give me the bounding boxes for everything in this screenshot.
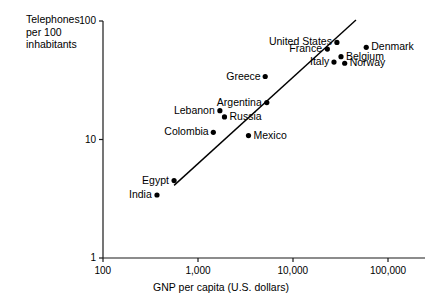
point-label-denmark: Denmark: [371, 40, 414, 52]
data-point-belgium: [338, 54, 343, 59]
data-point-italy: [331, 59, 336, 64]
data-point-united-states: [334, 40, 339, 45]
data-point-lebanon: [217, 108, 222, 113]
point-label-india: India: [129, 188, 152, 200]
data-point-argentina: [264, 100, 269, 105]
y-tick-label-100: 100: [79, 15, 96, 26]
x-tick-label-1,000: 1,000: [186, 265, 211, 276]
point-label-russia: Russia: [229, 110, 261, 122]
point-label-colombia: Colombia: [164, 125, 208, 137]
data-point-india: [154, 192, 159, 197]
point-label-egypt: Egypt: [142, 174, 169, 186]
point-label-greece: Greece: [226, 70, 260, 82]
data-point-egypt: [171, 178, 176, 183]
point-label-lebanon: Lebanon: [174, 104, 215, 116]
y-tick-label-1: 1: [90, 252, 96, 263]
data-point-colombia: [211, 130, 216, 135]
data-point-russia: [222, 114, 227, 119]
point-label-france: France: [289, 42, 322, 54]
point-label-mexico: Mexico: [253, 129, 286, 141]
point-label-norway: Norway: [350, 56, 386, 68]
data-point-greece: [263, 74, 268, 79]
x-tick-label-100: 100: [95, 265, 112, 276]
data-point-mexico: [246, 133, 251, 138]
y-tick-label-10: 10: [85, 134, 96, 145]
point-label-argentina: Argentina: [217, 96, 262, 108]
x-axis-title: GNP per capita (U.S. dollars): [0, 281, 442, 293]
chart-figure: Telephones per 100 inhabitants 110100100…: [0, 0, 442, 302]
point-label-italy: Italy: [310, 55, 329, 67]
x-tick-label-100,000: 100,000: [370, 265, 406, 276]
x-tick-label-10,000: 10,000: [278, 265, 309, 276]
